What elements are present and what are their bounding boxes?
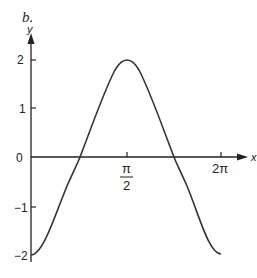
x-tick-label-pi-numerator: π [122, 161, 131, 176]
chart: b. y x 2 1 0 −1 −2 π 2 2π [0, 0, 257, 278]
x-tick-label-pi-denominator: 2 [123, 178, 130, 193]
y-tick-label-0: 0 [16, 151, 23, 165]
y-tick-label-neg2: −2 [14, 249, 28, 263]
y-tick-label-neg1: −1 [14, 201, 28, 215]
x-axis-arrow-icon [237, 154, 248, 161]
y-tick-label-2: 2 [17, 53, 24, 67]
x-tick-label-2pi: 2π [212, 161, 228, 176]
y-ticks [31, 60, 36, 207]
y-tick-label-1: 1 [19, 102, 26, 116]
x-axis-label: x [250, 151, 257, 163]
